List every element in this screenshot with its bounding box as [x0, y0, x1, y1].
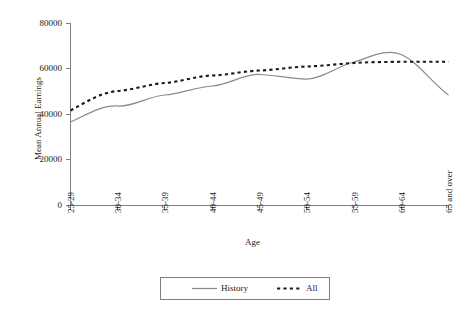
x-tick-label: 35-39: [161, 192, 170, 213]
x-tick-label: 60-64: [398, 192, 407, 213]
chart-canvas: [0, 0, 474, 317]
y-tick-label: 60000: [34, 64, 62, 73]
legend-item-history-label: History: [221, 284, 248, 293]
x-tick-label: 25-29: [67, 192, 76, 213]
y-tick-label: 20000: [34, 155, 62, 164]
x-tick-label: 40-44: [209, 192, 218, 213]
y-tick-label: 80000: [34, 19, 62, 28]
x-tick-label: 45-49: [256, 192, 265, 213]
x-tick-label: 55-59: [351, 192, 360, 213]
y-tick-label: 0: [34, 201, 62, 210]
y-tick-marks: [66, 24, 71, 206]
series-line-all: [71, 62, 449, 111]
y-tick-label: 40000: [34, 110, 62, 119]
x-axis-title: Age: [245, 238, 260, 247]
x-tick-label: 65 and over: [445, 171, 454, 214]
chart-figure: Mean Annual Earnings 80000 60000 40000 2…: [0, 0, 474, 317]
x-tick-label: 30-34: [114, 192, 123, 213]
x-tick-label: 50-54: [303, 192, 312, 213]
legend-item-all-label: All: [306, 284, 318, 293]
